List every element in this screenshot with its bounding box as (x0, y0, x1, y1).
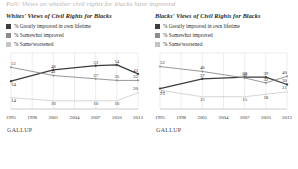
x-axis-tick-label: 1998 (27, 114, 37, 121)
svg-text:23: 23 (160, 91, 165, 96)
x-axis-whites: 1995199820012004200720102013 (6, 114, 145, 124)
chart-plot-whites: 344853544351413735351410101020 (6, 51, 145, 113)
legend-swatch-icon (6, 42, 11, 47)
svg-text:15: 15 (242, 97, 247, 102)
legend-item-somewhat-improved: % Somewhat improved (6, 31, 145, 39)
svg-text:30: 30 (282, 78, 287, 83)
legend-label: % Same/worsened (163, 41, 202, 47)
x-axis-tick-label: 2004 (70, 114, 80, 121)
legend-item-greatly-improved: % Greatly improved in own lifetime (155, 22, 294, 30)
svg-text:15: 15 (200, 97, 205, 102)
x-axis-tick-label: 2010 (261, 114, 271, 121)
svg-text:18: 18 (263, 95, 268, 100)
chart-panels: Whites' Views of Civil Rights for Blacks… (0, 12, 298, 133)
x-axis-tick-label: 2013 (282, 114, 292, 121)
svg-text:35: 35 (114, 74, 119, 79)
svg-text:35: 35 (133, 74, 138, 79)
svg-text:39: 39 (263, 71, 268, 76)
svg-text:37: 37 (93, 73, 98, 78)
legend-swatch-icon (6, 24, 11, 29)
legend-label: % Same/worsened (14, 41, 53, 47)
svg-text:20: 20 (133, 86, 138, 91)
svg-text:53: 53 (93, 60, 98, 65)
svg-text:37: 37 (200, 73, 205, 78)
x-axis-blacks: 1995199820012004200720102013 (155, 114, 294, 124)
x-axis-tick-label: 1995 (155, 114, 165, 121)
x-axis-tick-label: 2001 (197, 114, 207, 121)
svg-text:51: 51 (11, 61, 16, 66)
legend-swatch-icon (155, 42, 160, 47)
legend-label: % Somewhat improved (14, 32, 64, 38)
legend-blacks: % Greatly improved in own lifetime % Som… (155, 22, 294, 48)
legend-label: % Greatly improved in own lifetime (14, 23, 91, 29)
x-axis-tick-label: 2007 (240, 114, 250, 121)
panel-whites: Whites' Views of Civil Rights for Blacks… (0, 12, 149, 133)
svg-text:43: 43 (133, 68, 138, 73)
line-chart-svg-blacks: 253739393052463832402315151821 (155, 51, 294, 113)
svg-text:48: 48 (51, 64, 56, 69)
svg-text:10: 10 (93, 101, 98, 106)
legend-swatch-icon (155, 33, 160, 38)
chart-plot-blacks: 253739393052463832402315151821 (155, 51, 294, 113)
poll-chart-page: Poll: Views on whether civil rights for … (0, 0, 298, 169)
line-chart-svg-whites: 344853544351413735351410101020 (6, 51, 145, 113)
legend-swatch-icon (6, 33, 11, 38)
legend-item-greatly-improved: % Greatly improved in own lifetime (6, 22, 145, 30)
svg-text:34: 34 (11, 82, 16, 87)
panel-blacks: Blacks' Views of Civil Rights for Blacks… (149, 12, 298, 133)
x-axis-tick-label: 2007 (91, 114, 101, 121)
x-axis-tick-label: 2013 (133, 114, 143, 121)
svg-text:40: 40 (282, 70, 287, 75)
svg-text:38: 38 (242, 72, 247, 77)
svg-text:32: 32 (263, 77, 268, 82)
x-axis-tick-label: 1998 (176, 114, 186, 121)
source-label-blacks: GALLUP (156, 127, 294, 133)
legend-label: % Somewhat improved (163, 32, 213, 38)
source-label-whites: GALLUP (7, 127, 145, 133)
svg-text:14: 14 (11, 98, 16, 103)
x-axis-tick-label: 1995 (6, 114, 16, 121)
legend-item-same-worsened: % Same/worsened (155, 40, 294, 48)
svg-text:46: 46 (200, 65, 205, 70)
legend-swatch-icon (155, 24, 160, 29)
x-axis-tick-label: 2004 (219, 114, 229, 121)
svg-text:10: 10 (114, 101, 119, 106)
x-axis-tick-label: 2010 (112, 114, 122, 121)
panel-title-whites: Whites' Views of Civil Rights for Blacks (6, 12, 145, 20)
svg-text:21: 21 (282, 85, 287, 90)
legend-item-same-worsened: % Same/worsened (6, 40, 145, 48)
svg-text:10: 10 (51, 101, 56, 106)
clipped-header-text: Poll: Views on whether civil rights for … (6, 0, 292, 9)
x-axis-tick-label: 2001 (48, 114, 58, 121)
legend-label: % Greatly improved in own lifetime (163, 23, 240, 29)
svg-text:54: 54 (114, 59, 119, 64)
legend-whites: % Greatly improved in own lifetime % Som… (6, 22, 145, 48)
legend-item-somewhat-improved: % Somewhat improved (155, 31, 294, 39)
panel-title-blacks: Blacks' Views of Civil Rights for Blacks (155, 12, 294, 20)
svg-text:41: 41 (51, 69, 56, 74)
svg-text:52: 52 (160, 60, 165, 65)
